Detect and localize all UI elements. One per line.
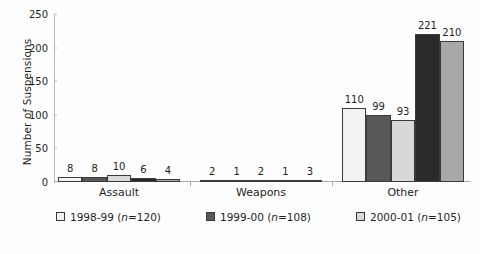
bar-slot: 99	[366, 14, 390, 182]
bar-value-label: 210	[442, 27, 461, 38]
bar-value-label: 110	[345, 94, 364, 105]
bar-chart: Number of Suspensions 050100150200250 88…	[0, 0, 480, 254]
bar[interactable]	[415, 34, 439, 183]
bar-value-label: 1	[233, 166, 239, 177]
bar[interactable]	[58, 177, 82, 182]
y-tick-mark	[54, 148, 57, 149]
bar-slot: 1	[224, 14, 248, 182]
y-tick-mark	[54, 81, 57, 82]
bar-slot: 221	[415, 14, 439, 182]
bar[interactable]	[249, 180, 273, 183]
bar-value-label: 4	[165, 165, 171, 176]
bar-value-label: 3	[307, 166, 313, 177]
bar[interactable]	[107, 175, 131, 182]
bar-group: 1109993221210Other	[342, 14, 464, 182]
y-tick-label: 150	[18, 76, 48, 87]
bar-value-label: 8	[91, 163, 97, 174]
bar-value-label: 1	[282, 166, 288, 177]
bar[interactable]	[200, 180, 224, 183]
bar-slot: 2	[200, 14, 224, 182]
bar-value-label: 6	[140, 164, 146, 175]
bar[interactable]	[131, 178, 155, 182]
y-tick-mark	[54, 114, 57, 115]
y-tick-mark	[54, 14, 57, 15]
bar-slot: 8	[58, 14, 82, 182]
legend-swatch	[206, 212, 215, 221]
legend-item[interactable]: 2000-01 (n=105)	[356, 208, 480, 225]
bar-slot: 3	[298, 14, 322, 182]
bar-group: 21213Weapons	[200, 14, 322, 182]
bar[interactable]	[440, 41, 464, 182]
legend-swatch	[56, 212, 65, 221]
bar[interactable]	[391, 120, 415, 182]
legend-label: 2000-01 (n=105)	[370, 211, 461, 223]
bar-value-label: 221	[418, 20, 437, 31]
legend-item[interactable]: 1998-99 (n=120)	[56, 208, 206, 225]
y-tick-label: 50	[18, 143, 48, 154]
bar-slot: 93	[391, 14, 415, 182]
bar-slot: 6	[131, 14, 155, 182]
bar-slot: 8	[82, 14, 106, 182]
x-axis-group-separator	[332, 181, 333, 186]
bar-value-label: 93	[397, 106, 410, 117]
plot-area: 050100150200250 881064Assault21213Weapon…	[54, 14, 470, 182]
legend-item[interactable]: 1999-00 (n=108)	[206, 208, 356, 225]
bar[interactable]	[273, 180, 297, 183]
legend-label: 1998-99 (n=120)	[70, 211, 161, 223]
bar-slot: 1	[273, 14, 297, 182]
chart-legend: 1998-99 (n=120)1999-00 (n=108)2000-01 (n…	[56, 208, 460, 225]
bar[interactable]	[342, 108, 366, 182]
bar-group-bars: 881064	[58, 14, 180, 182]
bar[interactable]	[366, 115, 390, 182]
bar[interactable]	[224, 180, 248, 183]
x-axis-category-label: Weapons	[200, 186, 322, 199]
y-axis-line	[54, 14, 55, 182]
legend-swatch	[356, 212, 365, 221]
y-tick-label: 200	[18, 42, 48, 53]
x-axis-category-label: Assault	[58, 186, 180, 199]
y-tick-mark	[54, 182, 57, 183]
y-tick-label: 250	[18, 9, 48, 20]
bar-group-bars: 1109993221210	[342, 14, 464, 182]
x-axis-group-separator	[190, 181, 191, 186]
bar-value-label: 8	[67, 163, 73, 174]
bar-value-label: 2	[209, 166, 215, 177]
y-tick-label: 100	[18, 109, 48, 120]
bar[interactable]	[156, 179, 180, 182]
bar[interactable]	[298, 180, 322, 183]
legend-label: 1999-00 (n=108)	[220, 211, 311, 223]
bar-value-label: 99	[372, 101, 385, 112]
bar-value-label: 10	[113, 161, 126, 172]
bar-group-bars: 21213	[200, 14, 322, 182]
bar-slot: 2	[249, 14, 273, 182]
bar-group: 881064Assault	[58, 14, 180, 182]
x-axis-category-label: Other	[342, 186, 464, 199]
bar-slot: 210	[440, 14, 464, 182]
y-tick-mark	[54, 47, 57, 48]
bar-slot: 110	[342, 14, 366, 182]
bar-slot: 10	[107, 14, 131, 182]
y-tick-label: 0	[18, 177, 48, 188]
bar[interactable]	[82, 177, 106, 182]
bar-value-label: 2	[258, 166, 264, 177]
bar-slot: 4	[156, 14, 180, 182]
